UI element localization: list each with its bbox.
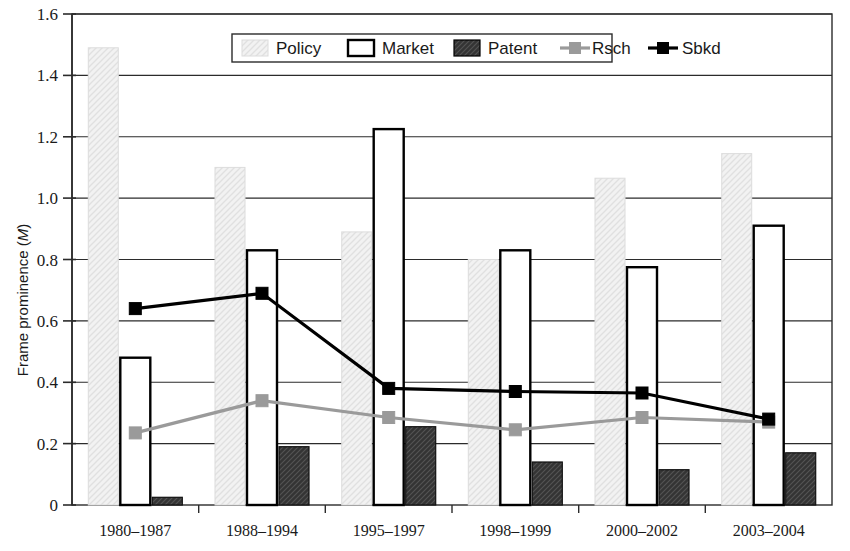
y-axis-title-italic: M	[14, 228, 31, 241]
bar-policy	[722, 154, 752, 505]
svg-text:Frame prominence (M): Frame prominence (M)	[14, 224, 31, 377]
bar-market	[627, 267, 657, 505]
y-tick-label: 0.8	[37, 251, 58, 270]
x-category-label: 2000–2002	[606, 522, 678, 539]
y-tick-label: 1.6	[37, 5, 58, 24]
x-category-label: 1988–1994	[226, 522, 298, 539]
marker-sbkd	[256, 287, 268, 299]
bar-patent	[406, 427, 436, 505]
legend-marker-rsch-icon	[569, 42, 581, 54]
x-axis-category-labels: 1980–19871988–19941995–19971998–19992000…	[99, 522, 804, 539]
y-tick-label: 0	[50, 496, 59, 515]
marker-rsch	[509, 424, 521, 436]
legend-label-rsch: Rsch	[592, 39, 631, 58]
y-axis-title-close: )	[14, 224, 31, 229]
legend-label-sbkd: Sbkd	[682, 39, 721, 58]
chart-container: 00.20.40.60.81.01.21.41.6 1980–19871988–…	[0, 0, 850, 551]
bar-market	[754, 226, 784, 505]
y-axis-title: Frame prominence (M)	[14, 224, 31, 377]
y-tick-label: 1.0	[37, 189, 58, 208]
marker-sbkd	[509, 386, 521, 398]
legend-swatch-policy-icon	[242, 40, 268, 56]
marker-sbkd	[383, 382, 395, 394]
legend-label-policy: Policy	[276, 39, 322, 58]
bar-market	[500, 250, 530, 505]
legend-swatch-patent-icon	[454, 40, 480, 56]
x-axis-ticks	[199, 505, 706, 513]
legend-marker-sbkd-icon	[657, 42, 669, 54]
marker-rsch	[256, 395, 268, 407]
bar-patent	[279, 447, 309, 505]
y-axis-tick-labels: 00.20.40.60.81.01.21.41.6	[37, 5, 59, 515]
bar-patent	[152, 497, 182, 505]
bar-policy	[88, 48, 118, 505]
marker-sbkd	[129, 303, 141, 315]
frame-prominence-chart: 00.20.40.60.81.01.21.41.6 1980–19871988–…	[0, 0, 850, 551]
x-category-label: 2003–2004	[733, 522, 805, 539]
bar-policy	[468, 260, 498, 506]
marker-sbkd	[636, 387, 648, 399]
bar-policy	[215, 167, 245, 505]
bar-market	[374, 129, 404, 505]
legend-item-patent: Patent	[454, 39, 537, 58]
y-tick-label: 0.6	[37, 312, 58, 331]
legend-item-market: Market	[348, 39, 434, 58]
bar-patent	[659, 470, 689, 505]
y-tick-label: 0.2	[37, 435, 58, 454]
y-tick-label: 1.4	[37, 66, 59, 85]
marker-rsch	[129, 427, 141, 439]
bar-policy	[595, 178, 625, 505]
marker-rsch	[636, 412, 648, 424]
legend-swatch-market-icon	[348, 40, 374, 56]
marker-sbkd	[763, 413, 775, 425]
bar-patent	[786, 453, 816, 505]
marker-rsch	[383, 412, 395, 424]
x-category-label: 1980–1987	[99, 522, 171, 539]
x-category-label: 1995–1997	[353, 522, 425, 539]
y-tick-label: 0.4	[37, 373, 59, 392]
legend-label-patent: Patent	[488, 39, 537, 58]
x-category-label: 1998–1999	[479, 522, 551, 539]
y-tick-label: 1.2	[37, 128, 58, 147]
legend-label-market: Market	[382, 39, 434, 58]
bar-policy	[342, 232, 372, 505]
y-axis-title-text: Frame prominence (	[14, 241, 31, 376]
legend-item-policy: Policy	[242, 39, 322, 58]
bar-patent	[532, 462, 562, 505]
